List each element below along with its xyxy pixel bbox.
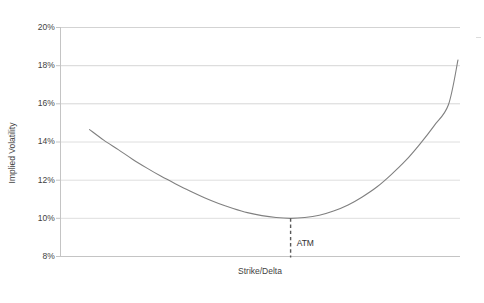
chart-plot-area: 20% 18% 16% 14% 12% 10% 8% Implied Volat… (0, 0, 484, 285)
figure-container: 20% 18% 16% 14% 12% 10% 8% Implied Volat… (0, 0, 484, 303)
atm-annotation-label: ATM (297, 238, 314, 248)
y-axis-title: Implied Volatility (7, 93, 17, 213)
volatility-smile-chart (0, 0, 484, 285)
y-tick-marks (56, 28, 60, 257)
y-tick-label-8: 8% (22, 252, 55, 261)
x-axis-title: Strike/Delta (60, 266, 460, 276)
y-tick-label-12: 12% (22, 176, 55, 185)
implied-volatility-curve (90, 60, 458, 218)
y-tick-label-10: 10% (22, 214, 55, 223)
y-tick-label-18: 18% (22, 61, 55, 70)
cropped-caption-text (18, 293, 20, 297)
scan-artifact-mark (476, 37, 481, 38)
y-tick-label-16: 16% (22, 99, 55, 108)
y-tick-label-14: 14% (22, 137, 55, 146)
cropped-caption-strip (0, 293, 484, 303)
gridlines (60, 28, 460, 219)
y-tick-label-20: 20% (22, 23, 55, 32)
